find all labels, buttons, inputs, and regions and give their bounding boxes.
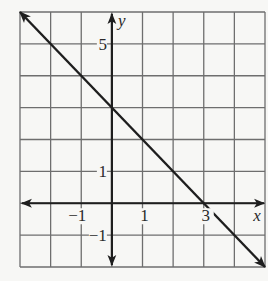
x-axis-label: x [252, 206, 261, 225]
y-tick-label: −1 [89, 226, 107, 245]
tick-labels: −11351−1xy [68, 11, 261, 245]
coordinate-plane: −11351−1xy [0, 0, 268, 281]
y-axis-label: y [116, 11, 126, 30]
x-tick-label: −1 [68, 206, 86, 225]
y-tick-label: 1 [98, 162, 107, 181]
x-tick-label: 3 [202, 206, 211, 225]
x-tick-label: 1 [140, 206, 149, 225]
y-tick-label: 5 [98, 35, 107, 54]
